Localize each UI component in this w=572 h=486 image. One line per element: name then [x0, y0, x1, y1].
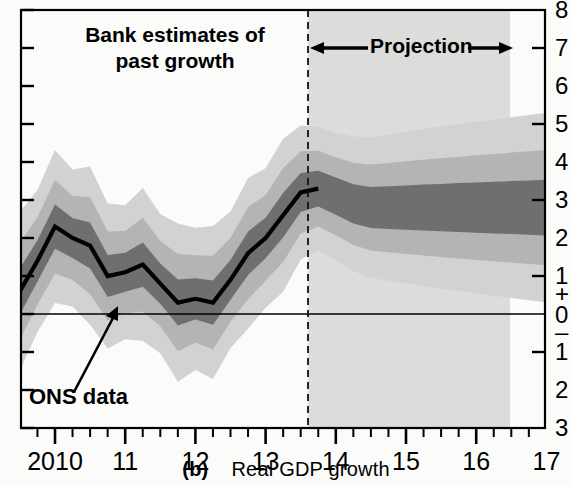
- y-tick-label-zero: –: [555, 318, 569, 345]
- y-tick-label: 7: [555, 34, 568, 61]
- ons-data-label: ONS data: [29, 384, 128, 410]
- x-axis-ticks: [37, 428, 528, 444]
- y-tick-label: 5: [555, 110, 568, 137]
- figure-caption-text: Real GDP growth: [231, 458, 389, 480]
- projection-label: Projection: [370, 34, 470, 58]
- y-tick-label: 4: [555, 148, 568, 175]
- y-tick-label: 8: [555, 0, 568, 23]
- figure-root: 87654321123+0– 201011121314151617 Bank e…: [0, 0, 572, 486]
- figure-caption: (b) Real GDP growth: [0, 458, 572, 481]
- y-axis-tick-labels: 87654321123+0–: [555, 0, 569, 441]
- y-tick-label: 3: [555, 414, 568, 441]
- past-growth-line-2: past growth: [62, 48, 288, 74]
- y-tick-label: 2: [555, 376, 568, 403]
- past-growth-annotation: Bank estimates of past growth: [62, 22, 288, 73]
- y-tick-label: 6: [555, 72, 568, 99]
- past-growth-line-1: Bank estimates of: [62, 22, 288, 48]
- y-tick-label: 2: [555, 224, 568, 251]
- y-tick-label: 3: [555, 186, 568, 213]
- figure-caption-label: (b): [182, 458, 208, 480]
